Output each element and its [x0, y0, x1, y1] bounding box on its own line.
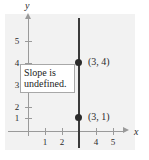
callout-line-1: Slope is — [24, 67, 71, 78]
x-axis-line — [8, 131, 124, 132]
x-tick-label-5: 5 — [108, 138, 118, 147]
x-axis-arrow-icon — [123, 127, 129, 133]
data-point-3-1 — [75, 114, 82, 121]
y-tick-mark-2 — [25, 107, 32, 108]
y-tick-mark-1 — [25, 118, 32, 119]
x-axis-label: x — [134, 127, 138, 137]
vertical-line-x-equals-3 — [78, 18, 80, 148]
x-tick-mark-5 — [113, 128, 114, 135]
y-tick-label-5: 5 — [12, 37, 22, 46]
x-tick-mark-1 — [45, 128, 46, 135]
data-point-3-4 — [75, 59, 82, 66]
x-tick-mark-4 — [96, 128, 97, 135]
x-tick-mark-2 — [62, 128, 63, 135]
y-axis-arrow-icon — [25, 13, 31, 19]
data-point-label-3-1: (3, 1) — [88, 112, 110, 122]
slope-undefined-callout: Slope is undefined. — [20, 64, 75, 93]
y-tick-label-1: 1 — [12, 114, 22, 123]
coordinate-plane-figure: x y 5 4 3 2 1 1 2 4 5 (3, 4) (3, 1) Slop… — [0, 0, 149, 160]
y-tick-label-2: 2 — [12, 103, 22, 112]
data-point-label-3-4: (3, 4) — [88, 57, 110, 67]
x-tick-label-1: 1 — [40, 138, 50, 147]
callout-line-2: undefined. — [24, 78, 71, 89]
x-tick-label-2: 2 — [57, 138, 67, 147]
y-axis-label: y — [25, 1, 29, 11]
y-tick-mark-5 — [25, 41, 32, 42]
x-tick-label-4: 4 — [91, 138, 101, 147]
